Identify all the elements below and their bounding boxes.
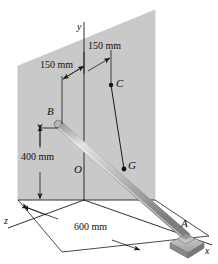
point-a-label: A bbox=[181, 218, 188, 229]
axis-y-label: y bbox=[77, 22, 81, 32]
wall-panel bbox=[18, 10, 155, 200]
axis-z-label: z bbox=[4, 216, 8, 226]
origin-o-label: O bbox=[74, 164, 82, 175]
dim-150-lower-label: 150 mm bbox=[40, 60, 73, 70]
point-c-label: C bbox=[116, 78, 123, 89]
axis-z-line bbox=[8, 200, 84, 228]
pedestal-base bbox=[170, 234, 204, 258]
dim-150-upper-label: 150 mm bbox=[88, 41, 121, 51]
point-g-dot bbox=[122, 167, 127, 172]
axis-x-label: x bbox=[205, 246, 209, 256]
point-g-label: G bbox=[128, 160, 136, 171]
engineering-figure: y x z B C G A O 150 mm 150 mm 400 mm 600… bbox=[0, 0, 218, 264]
dim-400-label: 400 mm bbox=[21, 152, 54, 162]
point-b-label: B bbox=[47, 106, 54, 117]
dim-600-label: 600 mm bbox=[74, 222, 107, 232]
